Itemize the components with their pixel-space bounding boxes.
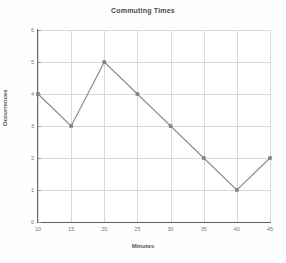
y-tick-mark <box>38 126 41 127</box>
x-tick-label: 30 <box>161 226 181 232</box>
y-axis-label: Occurrences <box>2 89 8 126</box>
y-tick-label: 0 <box>12 219 34 225</box>
y-tick-mark <box>38 158 41 159</box>
y-tick-mark <box>38 62 41 63</box>
x-tick-label: 25 <box>127 226 147 232</box>
y-tick-label: 3 <box>12 123 34 129</box>
x-axis-line <box>37 222 271 223</box>
data-point-marker <box>69 124 73 128</box>
y-tick-label: 5 <box>12 59 34 65</box>
x-tick-label: 45 <box>260 226 280 232</box>
x-tick-label: 40 <box>227 226 247 232</box>
y-tick-label: 4 <box>12 91 34 97</box>
data-point-marker <box>202 156 206 160</box>
x-tick-label: 15 <box>61 226 81 232</box>
y-tick-mark <box>38 190 41 191</box>
x-tick-label: 35 <box>194 226 214 232</box>
gridline-vertical <box>270 30 271 222</box>
y-tick-label: 6 <box>12 27 34 33</box>
data-series-line <box>38 30 270 222</box>
y-tick-label: 1 <box>12 187 34 193</box>
y-tick-mark <box>38 94 41 95</box>
data-point-marker <box>136 92 140 96</box>
chart-container: Commuting Times Occurrences Minutes 0123… <box>0 0 286 263</box>
x-tick-label: 10 <box>28 226 48 232</box>
data-point-marker <box>235 188 239 192</box>
chart-title: Commuting Times <box>0 7 286 14</box>
data-point-marker <box>268 156 272 160</box>
x-tick-label: 20 <box>94 226 114 232</box>
x-axis-label: Minutes <box>0 243 286 249</box>
plot-area <box>38 30 270 222</box>
y-tick-mark <box>38 222 41 223</box>
data-point-marker <box>102 60 106 64</box>
y-tick-mark <box>38 30 41 31</box>
data-point-marker <box>169 124 173 128</box>
y-tick-label: 2 <box>12 155 34 161</box>
